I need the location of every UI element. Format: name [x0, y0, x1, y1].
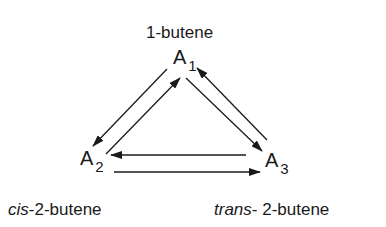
a3-name-suffix: - 2-butene: [252, 200, 330, 219]
a3-symbol: A: [265, 149, 278, 171]
a2-subscript: 2: [95, 158, 103, 175]
a1-subscript: 1: [188, 57, 196, 74]
node-a2: A2: [80, 148, 104, 168]
a2-name-prefix: cis: [8, 200, 29, 219]
arrow-a1-to-a2: [93, 69, 167, 146]
arrow-a3-to-a1: [197, 68, 267, 140]
a1-symbol: A: [173, 46, 186, 68]
a2-symbol: A: [80, 147, 93, 169]
a1-name-label: 1-butene: [146, 24, 213, 41]
arrow-a2-to-a1: [106, 78, 180, 154]
a3-name-prefix: trans: [214, 200, 252, 219]
a1-name-text: 1-butene: [146, 23, 213, 42]
a2-name-label: cis-2-butene: [8, 201, 102, 218]
arrow-a1-to-a3: [186, 78, 262, 151]
a3-subscript: 3: [280, 160, 288, 177]
a2-name-suffix: -2-butene: [29, 200, 102, 219]
reaction-network-diagram: 1-butene A1 A2 A3 cis-2-butene trans- 2-…: [0, 0, 386, 227]
node-a1: A1: [173, 47, 197, 67]
node-a3: A3: [265, 150, 289, 170]
a3-name-label: trans- 2-butene: [214, 201, 329, 218]
